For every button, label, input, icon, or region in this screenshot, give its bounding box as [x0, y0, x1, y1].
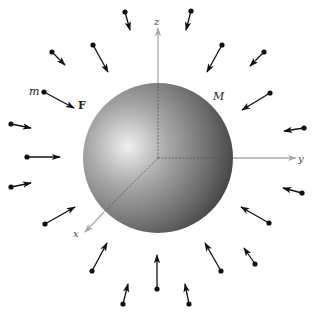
- field-arrow: [154, 255, 159, 292]
- field-arrow: [90, 42, 108, 72]
- y-axis-label: y: [297, 153, 304, 164]
- mass-M-label: M: [212, 90, 225, 103]
- force-vector: [241, 207, 269, 223]
- force-vector: [92, 243, 107, 271]
- test-mass-dot: [219, 42, 224, 47]
- test-mass-dot: [122, 9, 127, 14]
- field-arrow: [8, 183, 31, 190]
- test-mass-dot: [89, 268, 94, 273]
- test-mass-dot: [267, 90, 272, 95]
- test-mass-dot: [261, 49, 266, 54]
- field-arrow: [284, 125, 307, 131]
- force-vector: [123, 284, 128, 304]
- field-arrow: [89, 243, 107, 274]
- test-mass-dot: [90, 42, 95, 47]
- x-axis-label: x: [73, 228, 79, 239]
- field-arrow: [205, 243, 224, 274]
- gravity-field-diagram: z y x M m F: [0, 0, 313, 320]
- field-arrow: [241, 207, 272, 226]
- field-arrow: [41, 89, 74, 108]
- force-vector: [11, 183, 31, 187]
- test-mass-dot: [186, 301, 191, 306]
- force-vector: [207, 45, 222, 72]
- force-vector: [52, 52, 65, 65]
- field-arrow: [49, 49, 65, 65]
- field-arrow: [8, 121, 31, 128]
- force-vector: [186, 11, 191, 30]
- test-mass-dot: [8, 184, 13, 189]
- field-arrow: [24, 154, 60, 159]
- force-vector: [244, 248, 255, 264]
- force-vector: [11, 124, 31, 128]
- force-vector: [242, 93, 270, 110]
- field-arrow: [244, 248, 258, 267]
- test-mass-dot: [218, 268, 223, 273]
- force-vector: [125, 12, 130, 30]
- test-mass-dot: [252, 261, 257, 266]
- force-vector: [283, 188, 302, 193]
- test-mass-dot: [188, 8, 193, 13]
- z-axis-label: z: [153, 16, 160, 27]
- field-arrow: [283, 188, 305, 196]
- test-mass-dot: [42, 221, 47, 226]
- test-mass-m-label: m: [29, 85, 39, 98]
- force-vector: [93, 45, 108, 72]
- test-mass-dot: [154, 286, 159, 291]
- force-vector: [250, 52, 264, 66]
- field-arrow: [122, 9, 130, 30]
- test-mass-dot: [41, 89, 46, 94]
- test-mass-dot: [49, 49, 54, 54]
- test-mass-dot: [299, 190, 304, 195]
- test-mass-dot: [266, 220, 271, 225]
- field-arrow: [185, 284, 192, 307]
- test-mass-dot: [120, 301, 125, 306]
- force-vector: [284, 128, 304, 131]
- force-vector: [205, 243, 221, 271]
- field-arrow: [42, 207, 75, 227]
- force-vector: [185, 284, 189, 304]
- test-mass-dot: [301, 125, 306, 130]
- x-axis: [85, 212, 104, 232]
- force-vector: [44, 92, 74, 108]
- force-F-label: F: [78, 99, 86, 112]
- field-arrow: [207, 42, 225, 72]
- field-arrow: [242, 90, 273, 110]
- field-arrow: [120, 284, 128, 307]
- test-mass-dot: [8, 121, 13, 126]
- test-mass-dot: [24, 154, 29, 159]
- field-arrow: [186, 8, 194, 30]
- force-vector: [45, 207, 75, 224]
- field-arrow: [250, 49, 267, 66]
